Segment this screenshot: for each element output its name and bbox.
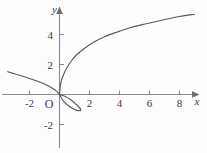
x-tick-label-6: 6 <box>147 97 153 109</box>
x-tick-label--2: -2 <box>25 97 34 109</box>
origin-label: O <box>45 97 54 111</box>
curve-figure: -2 2 4 6 8 2 4 -2 O y x <box>0 0 207 153</box>
x-tick-label-8: 8 <box>177 97 183 109</box>
x-tick-label-2: 2 <box>87 97 93 109</box>
x-axis-label: x <box>194 95 200 107</box>
y-axis-arrow-icon <box>56 7 63 15</box>
y-tick-label-2: 2 <box>48 59 54 71</box>
x-tick-label-4: 4 <box>117 97 123 109</box>
curve-left-branch <box>8 72 60 95</box>
y-tick-label--2: -2 <box>44 119 53 131</box>
curve-loop-branch <box>60 95 81 111</box>
y-tick-label-4: 4 <box>48 29 54 41</box>
plot-canvas: -2 2 4 6 8 2 4 -2 O y x <box>0 0 207 153</box>
curve-upper-branch <box>60 14 195 94</box>
y-axis-label: y <box>51 3 57 15</box>
